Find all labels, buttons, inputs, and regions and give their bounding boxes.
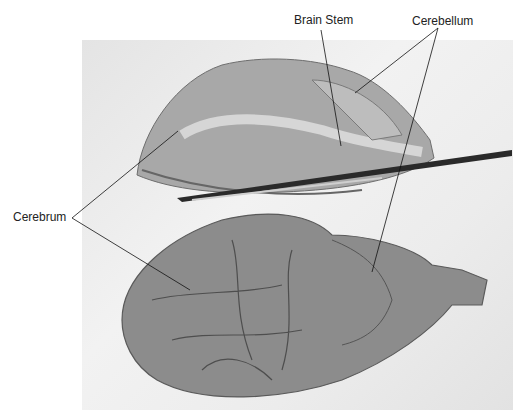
brain-stem-label: Brain Stem: [294, 13, 353, 27]
brain-photo: [82, 40, 513, 410]
whole-brain: [122, 214, 487, 397]
sagittal-brain: [137, 59, 512, 202]
cerebellum-label: Cerebellum: [412, 14, 473, 28]
brain-photo-illustration: [82, 40, 513, 410]
cerebrum-label: Cerebrum: [13, 210, 66, 224]
